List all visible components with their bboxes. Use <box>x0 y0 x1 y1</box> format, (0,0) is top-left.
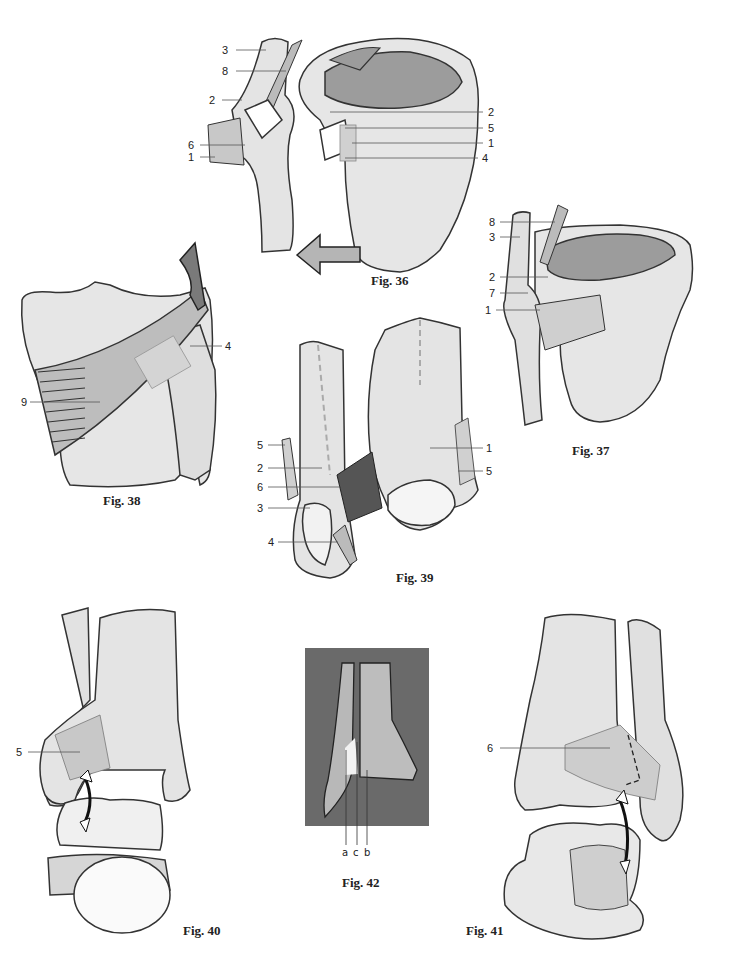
figure-41: 6 Fig. 41 <box>0 0 732 950</box>
fig41-label-6: 6 <box>487 743 493 754</box>
fig41-caption: Fig. 41 <box>466 923 504 939</box>
ankle-posterior-rotation-illustration <box>0 0 732 950</box>
